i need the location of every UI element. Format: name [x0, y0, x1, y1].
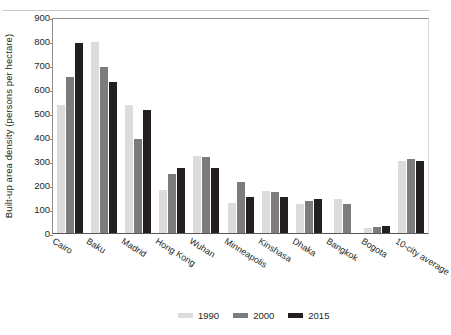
bar-group	[360, 19, 394, 233]
x-axis-tick-label: Dhaka	[291, 236, 318, 258]
legend-item-2015: 2015	[288, 310, 329, 321]
bar-group	[258, 19, 292, 233]
bar-1990	[91, 42, 99, 233]
legend-item-2000: 2000	[233, 310, 274, 321]
y-axis-tick-mark	[50, 91, 53, 92]
bar-2015	[143, 110, 151, 233]
bar-2015	[75, 43, 83, 233]
bar-2015	[177, 168, 185, 233]
x-axis-tick-label: Bogota	[359, 236, 388, 260]
y-axis-tick-mark	[50, 43, 53, 44]
legend-label-2000: 2000	[253, 310, 274, 321]
y-axis-tick-mark	[50, 187, 53, 188]
bar-1990	[262, 191, 270, 233]
bar-2000	[305, 201, 313, 233]
bar-2015	[109, 82, 117, 233]
bar-1990	[296, 204, 304, 233]
x-axis-tick-label: 10-city average	[394, 236, 451, 277]
bar-groups	[53, 19, 428, 233]
y-axis-tick-mark	[50, 115, 53, 116]
bar-group	[53, 19, 87, 233]
legend-label-1990: 1990	[198, 310, 219, 321]
y-axis-tick-mark	[50, 163, 53, 164]
y-axis-tick-mark	[50, 139, 53, 140]
bar-1990	[334, 199, 342, 233]
bar-group	[155, 19, 189, 233]
y-axis-tick-mark	[50, 67, 53, 68]
bar-group	[394, 19, 428, 233]
bar-group	[223, 19, 257, 233]
bar-1990	[398, 161, 406, 233]
legend-label-2015: 2015	[308, 310, 329, 321]
chart-legend: 1990 2000 2015	[178, 310, 329, 321]
bar-2000	[100, 67, 108, 233]
bar-group	[87, 19, 121, 233]
x-axis-tick-label: Madrid	[119, 236, 148, 259]
y-axis-tick-label: 500	[18, 109, 50, 119]
y-axis-tick-label: 0	[18, 229, 50, 239]
bar-group	[326, 19, 360, 233]
legend-swatch-2015-icon	[288, 313, 303, 318]
bar-2000	[168, 174, 176, 233]
bar-1990	[228, 203, 236, 233]
bar-2015	[416, 161, 424, 233]
bar-2015	[280, 197, 288, 233]
bar-1990	[159, 190, 167, 233]
y-axis-tick-mark	[50, 19, 53, 20]
bar-2015	[246, 197, 254, 233]
bar-2015	[314, 199, 322, 233]
y-axis-tick-label: 200	[18, 181, 50, 191]
x-axis-tick-label: Bangkok	[325, 236, 360, 263]
bar-2000	[66, 77, 74, 233]
y-axis-tick-label: 800	[18, 37, 50, 47]
bar-2000	[271, 192, 279, 233]
y-axis-tick-label: 100	[18, 205, 50, 215]
y-axis-title: Built-up area density (persons per hecta…	[3, 34, 14, 218]
bar-1990	[125, 105, 133, 233]
y-axis-tick-label: 400	[18, 133, 50, 143]
legend-swatch-1990-icon	[178, 313, 193, 318]
y-axis-tick-label: 900	[18, 13, 50, 23]
bar-1990	[193, 156, 201, 233]
y-axis-tick-label: 700	[18, 61, 50, 71]
x-axis-tick-label: Cairo	[51, 236, 75, 256]
y-axis-tick-label: 600	[18, 85, 50, 95]
bar-2000	[237, 182, 245, 233]
bar-2015	[211, 168, 219, 233]
bar-2000	[202, 157, 210, 233]
top-divider	[3, 10, 429, 11]
x-axis-tick-labels: CairoBakuMadridHong KongWuhanMinneapolis…	[52, 236, 429, 306]
bar-group	[121, 19, 155, 233]
legend-swatch-2000-icon	[233, 313, 248, 318]
y-axis-title-container: Built-up area density (persons per hecta…	[0, 18, 16, 234]
bar-2000	[407, 159, 415, 233]
bar-group	[189, 19, 223, 233]
bar-2000	[343, 204, 351, 233]
legend-item-1990: 1990	[178, 310, 219, 321]
bar-group	[292, 19, 326, 233]
bar-1990	[57, 105, 65, 233]
bar-1990	[364, 228, 372, 233]
bar-2000	[134, 139, 142, 233]
x-axis-tick-label: Baku	[85, 236, 108, 255]
bar-2015	[382, 226, 390, 233]
y-axis-tick-mark	[50, 211, 53, 212]
y-axis-tick-label: 300	[18, 157, 50, 167]
y-axis-tick-labels: 0100200300400500600700800900	[18, 18, 50, 234]
plot-area	[52, 18, 429, 234]
bar-2000	[373, 227, 381, 233]
